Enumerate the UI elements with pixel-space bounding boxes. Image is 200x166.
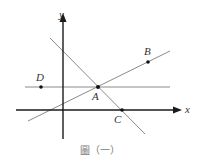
y-axis-label: y xyxy=(59,9,64,20)
point-D-label: D xyxy=(36,72,44,83)
figure-caption: 圖（一） xyxy=(0,146,200,156)
point-A-label: A xyxy=(92,91,99,102)
x-axis-arrow-icon xyxy=(173,107,182,114)
point-C xyxy=(120,108,124,112)
coordinate-diagram xyxy=(0,0,200,166)
point-D xyxy=(39,85,43,89)
point-A xyxy=(96,85,100,89)
point-C-label: C xyxy=(114,114,121,125)
point-B-label: B xyxy=(144,46,151,57)
point-B xyxy=(146,60,150,64)
x-axis-label: x xyxy=(185,104,190,115)
